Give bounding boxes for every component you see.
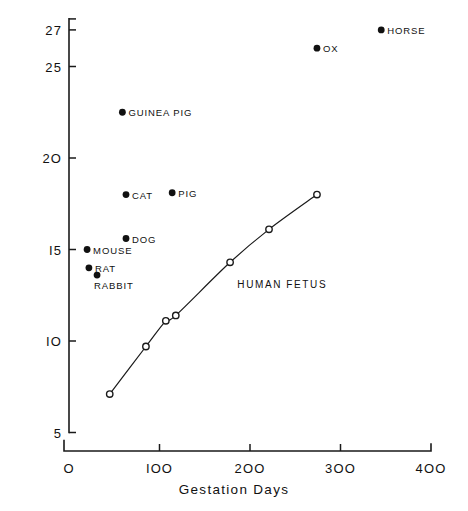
y-tick-label-27: 27 bbox=[20, 22, 62, 37]
x-tick-label-100: IOO bbox=[146, 461, 173, 476]
point-label-dog: DOG bbox=[132, 233, 156, 244]
point-label-ox: OX bbox=[323, 43, 339, 54]
figure-scatter-plot: 5IOI52O2527OIOO2OO3OO4OOMOUSERATRABBITDO… bbox=[0, 0, 468, 511]
y-tick-label-10: IO bbox=[20, 334, 62, 349]
x-tick-label-0: O bbox=[63, 461, 74, 476]
marker-human-fetus-2 bbox=[163, 318, 169, 324]
marker-human-fetus-5 bbox=[266, 226, 272, 232]
marker-cat bbox=[123, 191, 130, 198]
axes-group bbox=[64, 19, 431, 451]
human-fetus-trend-line bbox=[110, 195, 317, 394]
series-label-human-fetus: HUMAN FETUS bbox=[237, 279, 327, 290]
marker-mouse bbox=[84, 246, 91, 253]
point-label-rat: RAT bbox=[95, 262, 116, 273]
marker-pig bbox=[169, 189, 176, 196]
marker-human-fetus-4 bbox=[227, 259, 233, 265]
human-fetus-curve bbox=[110, 195, 317, 394]
marker-human-fetus-1 bbox=[143, 343, 149, 349]
y-tick-label-15: I5 bbox=[20, 242, 62, 257]
point-label-rabbit: RABBIT bbox=[94, 280, 134, 291]
marker-guinea-pig bbox=[119, 109, 126, 116]
y-tick-label-20: 2O bbox=[20, 151, 62, 166]
point-label-mouse: MOUSE bbox=[93, 244, 132, 255]
point-label-horse: HORSE bbox=[387, 24, 425, 35]
x-tick-label-200: 2OO bbox=[235, 461, 266, 476]
marker-horse bbox=[378, 27, 385, 34]
marker-dog bbox=[123, 235, 130, 242]
point-label-guinea-pig: GUINEA PIG bbox=[128, 107, 192, 118]
marker-human-fetus-6 bbox=[314, 191, 320, 197]
point-label-pig: PIG bbox=[178, 187, 197, 198]
x-axis-line bbox=[64, 441, 431, 452]
point-label-cat: CAT bbox=[132, 189, 153, 200]
marker-ox bbox=[314, 45, 321, 52]
x-tick-label-400: 4OO bbox=[416, 461, 447, 476]
marker-human-fetus-3 bbox=[173, 312, 179, 318]
marker-human-fetus-0 bbox=[107, 391, 113, 397]
marker-rat bbox=[86, 264, 93, 271]
y-tick-label-5: 5 bbox=[20, 425, 62, 440]
data-markers bbox=[84, 27, 385, 398]
x-axis-title: Gestation Days bbox=[0, 482, 468, 497]
x-tick-label-300: 3OO bbox=[325, 461, 356, 476]
y-tick-label-25: 25 bbox=[20, 59, 62, 74]
plot-canvas bbox=[0, 0, 468, 511]
